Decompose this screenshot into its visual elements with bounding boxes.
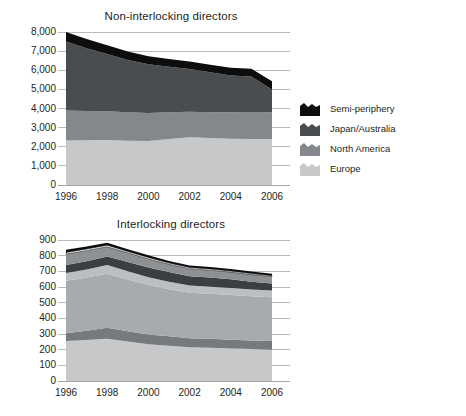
x-axis-tick-label: 1996: [46, 192, 86, 202]
x-axis-tick-label: 2004: [211, 388, 251, 398]
legend-item[interactable]: North America: [300, 138, 395, 158]
legend-swatch-icon: [300, 102, 320, 115]
chart-panel-non-interlocking: Non-interlocking directors 01,0002,0003,…: [0, 0, 466, 208]
x-axis-tick-label: 2002: [170, 192, 210, 202]
legend-item-label: Europe: [330, 163, 361, 174]
legend-item[interactable]: Europe: [300, 158, 395, 178]
legend-item-label: Semi-periphery: [330, 103, 394, 114]
legend-item[interactable]: Semi-periphery: [300, 98, 395, 118]
legend-item-label: Japan/Australia: [330, 123, 395, 134]
legend-swatch-icon: [300, 122, 320, 135]
legend-swatch-icon: [300, 142, 320, 155]
legend-swatch-icon: [300, 162, 320, 175]
legend-item[interactable]: Japan/Australia: [300, 118, 395, 138]
plot-area-interlocking: 0100200300400500600700800900 19961998200…: [0, 208, 300, 416]
x-axis-tick-label: 2006: [252, 388, 292, 398]
legend-item-label: North America: [330, 143, 390, 154]
x-axis-tick-label: 2002: [170, 388, 210, 398]
x-axis-labels-interlocking: 199619982000200220042006: [0, 208, 300, 416]
chart-panel-interlocking: Interlocking directors 01002003004005006…: [0, 208, 466, 416]
x-axis-tick-label: 1998: [87, 192, 127, 202]
x-axis-tick-label: 1998: [87, 388, 127, 398]
x-axis-tick-label: 2000: [128, 192, 168, 202]
legend-non-interlocking: Semi-peripheryJapan/AustraliaNorth Ameri…: [300, 98, 395, 178]
x-axis-tick-label: 2006: [252, 192, 292, 202]
plot-area-non-interlocking: 01,0002,0003,0004,0005,0006,0007,0008,00…: [0, 0, 300, 208]
x-axis-tick-label: 2000: [128, 388, 168, 398]
x-axis-tick-label: 1996: [46, 388, 86, 398]
x-axis-labels-non-interlocking: 199619982000200220042006: [0, 0, 300, 208]
x-axis-tick-label: 2004: [211, 192, 251, 202]
